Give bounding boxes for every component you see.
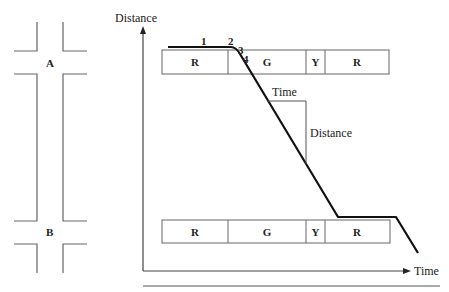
lower-phase-yellow: Y <box>312 226 320 238</box>
slope-time-label: Time <box>272 85 297 99</box>
upper-phase-yellow: Y <box>312 56 320 68</box>
y-axis-arrow-icon <box>140 26 146 34</box>
road-intersection-a <box>14 22 87 200</box>
time-space-diagram: A B Distance Time R G Y R R G Y R 1 2 3 <box>0 0 449 292</box>
signal-bar-upper: R G Y R <box>162 50 389 74</box>
lower-phase-green: G <box>263 226 272 238</box>
intersection-a-label: A <box>46 57 54 69</box>
x-axis-label: Time <box>414 264 439 278</box>
lower-phase-red-1: R <box>191 226 200 238</box>
upper-phase-green: G <box>263 56 272 68</box>
x-axis-arrow-icon <box>403 268 411 274</box>
y-axis-label: Distance <box>115 11 157 25</box>
trajectory-point-2: 2 <box>228 35 234 47</box>
intersection-b-label: B <box>46 226 54 238</box>
upper-phase-red-2: R <box>353 56 362 68</box>
upper-phase-red-1: R <box>191 56 200 68</box>
trajectory-point-4: 4 <box>243 53 249 65</box>
signal-bar-lower: R G Y R <box>162 220 390 243</box>
lower-phase-red-2: R <box>353 226 362 238</box>
trajectory-point-1: 1 <box>201 35 207 47</box>
slope-distance-label: Distance <box>310 126 352 140</box>
